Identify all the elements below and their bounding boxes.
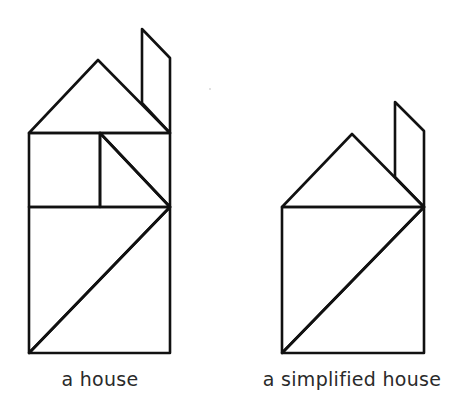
large-triangle-lower-piece — [282, 207, 424, 353]
large-triangle-lower-piece — [29, 207, 170, 353]
small-triangle-2-piece — [100, 133, 170, 207]
simplified-house-figure — [282, 102, 424, 353]
chimney-parallelogram-piece — [395, 102, 424, 207]
house-figure — [29, 29, 170, 353]
caption-house: a house — [61, 368, 138, 390]
window-square-piece — [29, 133, 100, 207]
chimney-parallelogram-piece — [142, 29, 170, 133]
tangram-diagram — [0, 0, 466, 414]
roof-triangle-piece — [29, 60, 170, 133]
roof-triangle-piece — [282, 134, 424, 207]
caption-simplified-house: a simplified house — [263, 368, 441, 390]
stray-speck — [209, 88, 211, 90]
